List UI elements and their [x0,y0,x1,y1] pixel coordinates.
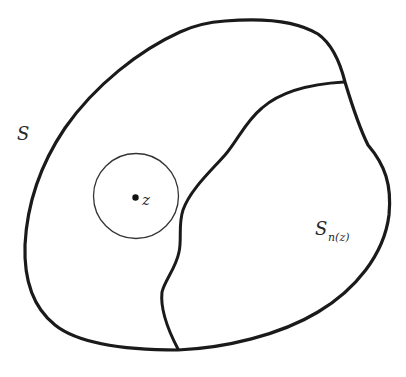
subregion-boundary-curve [162,82,344,349]
region-s-boundary [25,20,390,350]
set-diagram: z S S n(z) [0,0,406,377]
point-z-dot [132,194,138,200]
label-z: z [141,191,150,209]
label-subregion-subscript: n(z) [328,231,349,244]
label-subregion-s: S [315,218,327,239]
label-region-s: S [17,123,29,144]
